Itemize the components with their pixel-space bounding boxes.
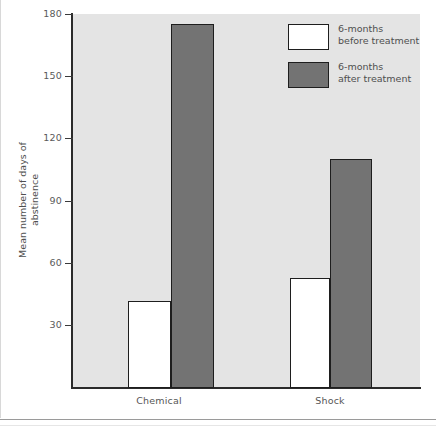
bar-shock-before [290,278,330,388]
y-tick-label-180: 180 [34,9,62,19]
bar-chemical-before [128,301,171,388]
page-edge-rule-bottom-secondary [0,425,436,426]
y-tick-mark-60 [65,263,73,264]
page-edge-rule-left [0,0,1,418]
y-tick-mark-90 [65,201,73,202]
legend-item-before: 6-months before treatment [288,24,420,62]
legend-label-before: 6-months before treatment [338,23,419,46]
bar-chart-figure: 180 150 120 90 60 30 Mean number of days… [0,0,436,430]
legend-label-after: 6-months after treatment [338,61,411,84]
y-tick-mark-30 [65,325,73,326]
y-tick-30: 30 [0,320,62,330]
y-tick-mark-180 [65,14,73,15]
legend-swatch-before-icon [288,24,329,50]
bar-chemical-after [171,24,214,388]
y-tick-label-150: 150 [34,71,62,81]
page-edge-rule-bottom [0,419,436,420]
bar-shock-after [330,159,372,388]
y-tick-label-30: 30 [34,320,62,330]
x-label-chemical: Chemical [103,395,215,407]
y-tick-180: 180 [0,9,62,19]
y-axis-title: Mean number of days of abstinence [17,105,41,295]
y-tick-150: 150 [0,71,62,81]
y-tick-mark-120 [65,138,73,139]
x-label-shock: Shock [274,395,386,407]
legend: 6-months before treatment 6-months after… [288,24,420,100]
y-tick-mark-150 [65,76,73,77]
legend-swatch-after-icon [288,62,329,88]
legend-item-after: 6-months after treatment [288,62,420,100]
